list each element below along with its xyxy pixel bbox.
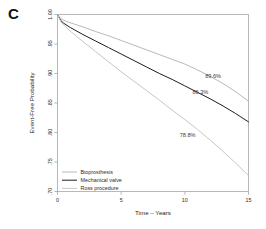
y-tick-label: .75 xyxy=(47,158,53,166)
y-tick-label: .85 xyxy=(47,99,53,107)
y-axis: .70.75.80.85.90.951.00 xyxy=(47,9,57,195)
y-tick-label: .80 xyxy=(47,129,53,137)
x-axis-title: Time – Years xyxy=(135,209,171,216)
y-tick-label: 1.00 xyxy=(47,9,53,20)
y-tick-label: .90 xyxy=(47,70,53,78)
x-axis: 051015 xyxy=(56,192,252,204)
curve-endpoint-labels: 89.6%86.3%78.8% xyxy=(180,73,221,138)
endpoint-label-mechanical-valve: 86.3% xyxy=(192,89,208,95)
curve-group xyxy=(58,15,249,176)
figure-panel-c: C 051015 .70.75.80.85.90.951.00 89.6%86.… xyxy=(0,0,266,229)
legend-label-2: Ross procedure xyxy=(81,185,119,191)
endpoint-label-ross-procedure: 78.8% xyxy=(180,132,196,138)
curve-bioprosthesis xyxy=(58,15,249,102)
x-tick-label: 15 xyxy=(246,197,252,203)
x-tick-label: 5 xyxy=(120,197,123,203)
y-tick-label: .95 xyxy=(47,40,53,48)
x-tick-label: 0 xyxy=(56,197,59,203)
plot-frame xyxy=(58,15,249,192)
curve-mechanical-valve xyxy=(58,15,249,122)
x-tick-label: 10 xyxy=(182,197,188,203)
survival-curve-chart: 051015 .70.75.80.85.90.951.00 89.6%86.3%… xyxy=(0,0,266,229)
endpoint-label-bioprosthesis: 89.6% xyxy=(205,73,221,79)
legend: BioprosthesisMechanical valveRoss proced… xyxy=(62,169,122,191)
legend-label-1: Mechanical valve xyxy=(81,177,122,183)
y-tick-label: .70 xyxy=(47,188,53,196)
curve-ross-procedure xyxy=(58,15,249,176)
legend-label-0: Bioprosthesis xyxy=(81,169,114,175)
y-axis-title: Event-Free Probability xyxy=(28,71,35,133)
